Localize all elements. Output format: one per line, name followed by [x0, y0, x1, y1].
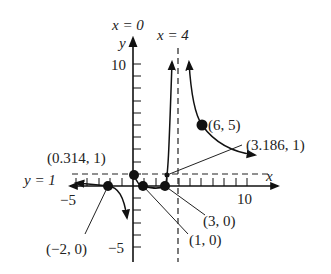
y-tick-label-10: 10 — [111, 57, 126, 73]
function-graph: x = 0 x = 4 y x y = 1 10 −5 −5 10 (0.314… — [0, 0, 331, 274]
point-label-6-5: (6, 5) — [208, 117, 241, 134]
point-label-3-0: (3, 0) — [203, 213, 236, 230]
point-label-3186: (3.186, 1) — [246, 137, 305, 154]
point-neg2-0 — [103, 181, 113, 191]
point-3186-1 — [165, 173, 170, 178]
point-label-0314: (0.314, 1) — [47, 150, 106, 167]
y-tick-label-neg5: −5 — [108, 240, 124, 256]
x-tick-label-neg5: −5 — [60, 192, 76, 208]
asymptote-label-y1: y = 1 — [22, 172, 56, 188]
point-3-0 — [160, 181, 170, 191]
point-label-1-0: (1, 0) — [189, 232, 222, 249]
point-1-0 — [138, 181, 148, 191]
point-6-5 — [197, 120, 208, 131]
y-axis-label: y — [117, 35, 126, 51]
labeled-points — [103, 120, 208, 192]
asymptote-label-x0: x = 0 — [111, 17, 144, 33]
x-tick-label-10: 10 — [237, 191, 252, 207]
asymptote-label-x4: x = 4 — [156, 27, 189, 43]
y-ticks — [133, 64, 141, 247]
point-0314-1 — [129, 170, 139, 180]
point-label-neg2: (−2, 0) — [46, 241, 87, 258]
x-axis-label: x — [265, 168, 273, 184]
